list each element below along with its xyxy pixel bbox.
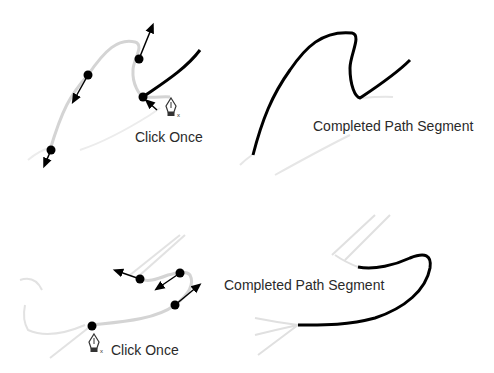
guide-sketch (20, 235, 185, 358)
completed-path-label-bottom: Completed Path Segment (224, 277, 384, 293)
completed-path (253, 33, 410, 155)
direction-handles (117, 271, 198, 305)
click-once-label-top: Click Once (135, 129, 203, 145)
click-once-label-bottom: Click Once (111, 342, 179, 358)
illustration-canvas: x x (0, 0, 494, 373)
pen-cursor-icon: x (89, 334, 103, 354)
svg-text:x: x (177, 112, 180, 118)
svg-text:x: x (100, 348, 103, 354)
completed-path-label-top: Completed Path Segment (313, 118, 473, 134)
panel-bottom-left: x (20, 235, 198, 358)
panel-top-right (240, 33, 410, 175)
pen-cursor-icon: x (166, 98, 180, 118)
guide-sketch (240, 97, 393, 175)
active-path (143, 50, 200, 97)
